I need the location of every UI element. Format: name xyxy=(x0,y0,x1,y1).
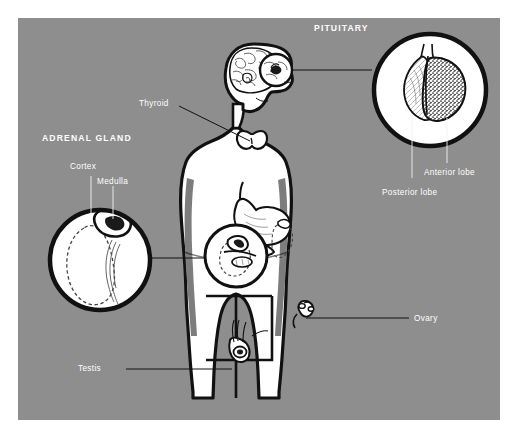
ovary-right xyxy=(308,307,314,311)
testis-label: Testis xyxy=(78,364,101,373)
ovary-label: Ovary xyxy=(414,314,438,323)
cortex-label: Cortex xyxy=(70,162,96,171)
posterior-lobe-label: Posterior lobe xyxy=(382,188,438,197)
ovary-left xyxy=(299,304,305,309)
thyroid-label: Thyroid xyxy=(139,99,169,108)
medulla-label: Medulla xyxy=(97,177,128,186)
endocrine-diagram-figure: PITUITARY Anterior lobe Posterior lobe xyxy=(0,0,520,440)
anterior-lobe-label: Anterior lobe xyxy=(424,168,475,177)
adrenal-right xyxy=(278,219,290,228)
diagram-canvas: PITUITARY Anterior lobe Posterior lobe xyxy=(0,0,520,440)
pituitary-heading: PITUITARY xyxy=(314,23,369,33)
testis-core xyxy=(237,350,243,355)
adrenal-gland-heading: ADRENAL GLAND xyxy=(42,133,132,143)
thyroid-gland xyxy=(237,131,267,149)
